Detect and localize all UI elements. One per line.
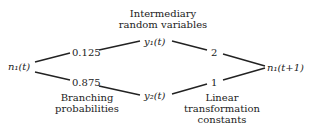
- node-y1: y₁(t): [144, 36, 165, 47]
- edge-label-2: 2: [211, 47, 217, 58]
- edge-source-y1-left: [35, 53, 70, 62]
- edge-label-0-875: 0.875: [72, 77, 101, 88]
- annotation-linear: Linear transformation constants: [182, 92, 262, 125]
- annotation-intermediary: Intermediary random variables: [118, 8, 208, 30]
- edge-label-1: 1: [211, 77, 217, 88]
- edge-y1-target-left: [172, 41, 207, 50]
- node-y2: y₂(t): [144, 90, 165, 101]
- edge-y2-target-right: [223, 68, 265, 80]
- node-source: n₁(t): [8, 61, 30, 72]
- annotation-branching: Branching probabilities: [52, 92, 122, 114]
- edge-label-0-125: 0.125: [72, 47, 101, 58]
- node-target: n₁(t+1): [267, 62, 304, 73]
- edge-y1-target-right: [223, 54, 265, 66]
- edge-source-y2-left: [35, 72, 70, 80]
- edge-source-y1-right: [99, 41, 140, 50]
